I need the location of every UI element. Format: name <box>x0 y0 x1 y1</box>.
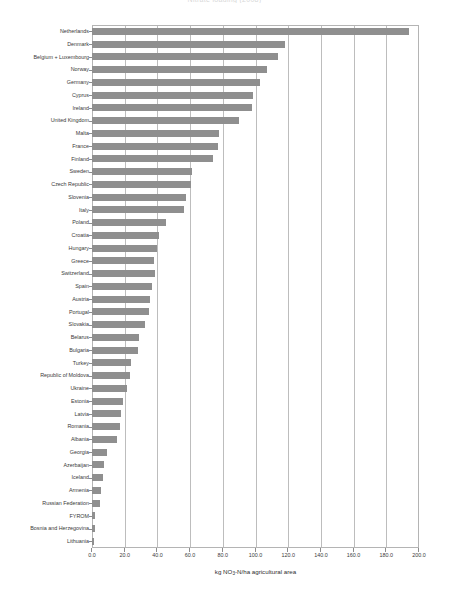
bar <box>92 334 139 341</box>
bar-row: Cyprus <box>0 89 449 102</box>
x-axis-tick-label: 160.0 <box>347 552 361 558</box>
x-axis-tick-label: 0.0 <box>88 552 96 558</box>
x-axis-tick-labels: 0.020.040.060.080.0100.0120.0140.0160.01… <box>0 552 449 564</box>
bar-row: Portugal <box>0 306 449 319</box>
bar <box>92 500 100 507</box>
bar-row: Estonia <box>0 395 449 408</box>
bar <box>92 155 213 162</box>
bar <box>92 512 95 519</box>
category-label: Czech Republic <box>51 178 92 191</box>
x-axis-tick-label: 140.0 <box>314 552 328 558</box>
bar <box>92 168 192 175</box>
bar-row: Lithuania <box>0 535 449 548</box>
bar-row: Netherlands <box>0 25 449 38</box>
bar-row: Azerbaijan <box>0 459 449 472</box>
bar-row: Iceland <box>0 471 449 484</box>
bar <box>92 296 150 303</box>
bar-row: Ireland <box>0 102 449 115</box>
bar <box>92 41 285 48</box>
x-axis-tick-label: 180.0 <box>380 552 394 558</box>
category-label: Belgium + Luxembourg <box>33 51 92 64</box>
bar-row: Norway <box>0 63 449 76</box>
x-axis-title-subscript: 3 <box>232 571 235 576</box>
x-axis-tick-label: 120.0 <box>281 552 295 558</box>
bar-row: France <box>0 140 449 153</box>
x-axis-title-post: -N/ha agricultural area <box>235 568 296 575</box>
bar <box>92 359 131 366</box>
bar <box>92 194 186 201</box>
bar <box>92 308 149 315</box>
bar <box>92 347 138 354</box>
bar-row: United Kingdom <box>0 114 449 127</box>
bar-row: Spain <box>0 280 449 293</box>
bar <box>92 104 252 111</box>
bar <box>92 257 154 264</box>
bar-row: Ukraine <box>0 382 449 395</box>
category-label: Republic of Moldova <box>40 369 92 382</box>
bar-row: Russian Federation <box>0 497 449 510</box>
bar-row: Italy <box>0 204 449 217</box>
bar <box>92 449 107 456</box>
bar <box>92 372 130 379</box>
bar-row: Finland <box>0 153 449 166</box>
category-label: United Kingdom <box>51 114 92 127</box>
x-axis-tick-label: 200.0 <box>412 552 426 558</box>
bar <box>92 410 121 417</box>
bar <box>92 436 117 443</box>
bar <box>92 53 278 60</box>
bar-row: Romania <box>0 420 449 433</box>
bar-row: Malta <box>0 127 449 140</box>
bar-row: Albania <box>0 433 449 446</box>
x-axis-tick-label: 100.0 <box>249 552 263 558</box>
bar-row: Poland <box>0 216 449 229</box>
bar <box>92 130 219 137</box>
bar-row: Germany <box>0 76 449 89</box>
bar <box>92 270 155 277</box>
bar <box>92 219 166 226</box>
bar-row: Bosnia and Herzegovina <box>0 522 449 535</box>
bar <box>92 525 95 532</box>
bar <box>92 538 94 545</box>
category-label: Russian Federation <box>42 497 92 510</box>
bar-row: Turkey <box>0 357 449 370</box>
bar <box>92 283 152 290</box>
bar-row: Belarus <box>0 331 449 344</box>
bar-chart: Nitrate loading (2008) NetherlandsDenmar… <box>0 0 449 595</box>
bar <box>92 181 191 188</box>
bar-row: Austria <box>0 293 449 306</box>
bar <box>92 385 127 392</box>
bar <box>92 79 260 86</box>
bar <box>92 461 104 468</box>
bar-row: Croatia <box>0 229 449 242</box>
bar-row: Greece <box>0 255 449 268</box>
bar-row: Switzerland <box>0 267 449 280</box>
bar <box>92 28 409 35</box>
bar-row: Slovenia <box>0 191 449 204</box>
bar-row: Georgia <box>0 446 449 459</box>
bar-row: Latvia <box>0 408 449 421</box>
bar-row: Bulgaria <box>0 344 449 357</box>
bar <box>92 474 103 481</box>
bar-row: FYROM <box>0 510 449 523</box>
bar-row: Slovakia <box>0 318 449 331</box>
x-axis-tick-label: 80.0 <box>218 552 229 558</box>
category-label: Switzerland <box>61 267 92 280</box>
bar-rows: NetherlandsDenmarkBelgium + LuxembourgNo… <box>0 25 449 548</box>
bar <box>92 232 159 239</box>
bar <box>92 487 101 494</box>
category-label: Netherlands <box>60 25 92 38</box>
chart-title: Nitrate loading (2008) <box>0 0 449 3</box>
bar <box>92 117 239 124</box>
category-label: Azerbaijan <box>64 459 92 472</box>
bar <box>92 66 267 73</box>
bar <box>92 143 218 150</box>
bar-row: Belgium + Luxembourg <box>0 51 449 64</box>
x-axis-tick-label: 20.0 <box>119 552 130 558</box>
bar <box>92 321 145 328</box>
bar-row: Czech Republic <box>0 178 449 191</box>
category-label: Bosnia and Herzegovina <box>30 522 92 535</box>
x-axis-title: kg NO3-N/ha agricultural area <box>92 568 419 575</box>
bar-row: Republic of Moldova <box>0 369 449 382</box>
bar-row: Hungary <box>0 242 449 255</box>
bar-row: Denmark <box>0 38 449 51</box>
